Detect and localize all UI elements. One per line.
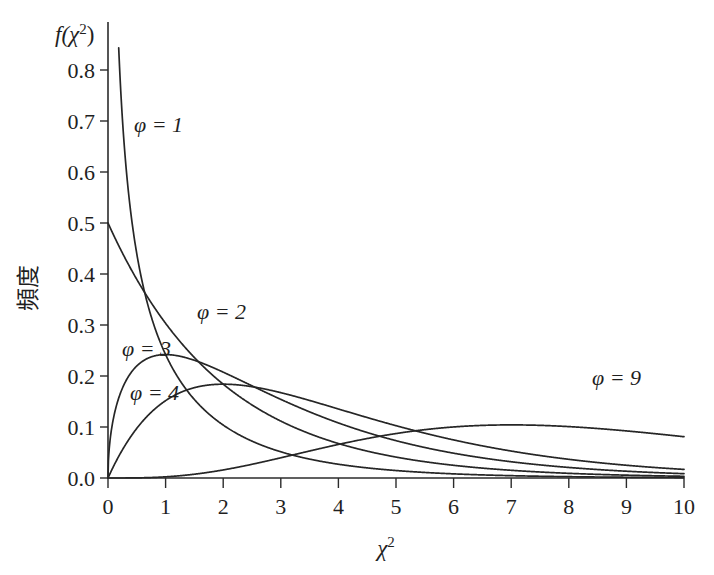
x-tick-label-7: 7	[506, 494, 517, 519]
x-tick-label-6: 6	[448, 494, 459, 519]
y-tick-label-7: 0.7	[68, 109, 96, 134]
x-tick-label-0: 0	[103, 494, 114, 519]
y-tick-label-4: 0.4	[68, 262, 96, 287]
y-axis-function-label: f(χ2)	[55, 21, 94, 47]
y-axis-chi-glyph: χ	[67, 22, 80, 47]
x-tick-label-3: 3	[275, 494, 286, 519]
y-tick-label-5: 0.5	[68, 211, 96, 236]
x-tick-label-5: 5	[391, 494, 402, 519]
curve-label-phi-2: φ = 2	[197, 299, 246, 324]
y-axis-label-japanese: 頻度	[15, 265, 41, 311]
curve-label-phi-4: φ = 4	[130, 380, 179, 405]
y-tick-label-2: 0.2	[68, 364, 96, 389]
x-axis-exponent: 2	[387, 534, 395, 550]
x-tick-label-9: 9	[621, 494, 632, 519]
x-axis-chi-glyph: χ	[375, 536, 388, 561]
x-tick-label-10: 10	[673, 494, 695, 519]
y-tick-label-0: 0.0	[68, 466, 96, 491]
y-axis-tick-labels: 0.0 0.1 0.2 0.3 0.4 0.5 0.6 0.7 0.8	[68, 58, 96, 491]
distribution-curves	[108, 48, 684, 478]
curve-annotations: φ = 1 φ = 2 φ = 3 φ = 4 φ = 9	[122, 112, 641, 405]
chi-square-distribution-chart: 0.0 0.1 0.2 0.3 0.4 0.5 0.6 0.7 0.8 0	[0, 0, 714, 575]
x-tick-label-4: 4	[333, 494, 344, 519]
curve-df-2	[108, 223, 684, 476]
x-tick-label-8: 8	[563, 494, 574, 519]
x-axis-ticks	[108, 478, 684, 488]
curve-label-phi-9: φ = 9	[592, 365, 641, 390]
curve-df-1	[119, 48, 684, 478]
plot-area: 0.0 0.1 0.2 0.3 0.4 0.5 0.6 0.7 0.8 0	[0, 0, 714, 575]
y-tick-label-1: 0.1	[68, 415, 96, 440]
svg-text:f(χ2): f(χ2)	[55, 21, 94, 47]
curve-label-phi-3: φ = 3	[122, 336, 171, 361]
curve-label-phi-1: φ = 1	[134, 112, 183, 137]
y-tick-label-8: 0.8	[68, 58, 96, 83]
svg-text:χ2: χ2	[375, 534, 395, 561]
y-tick-label-3: 0.3	[68, 313, 96, 338]
x-axis-tick-labels: 0 1 2 3 4 5 6 7 8 9 10	[103, 494, 696, 519]
x-tick-label-2: 2	[218, 494, 229, 519]
y-axis-ticks	[100, 70, 108, 478]
x-axis-label: χ2	[375, 534, 395, 561]
y-axis-label-text: 頻度	[15, 265, 41, 311]
y-axis-paren-close: )	[87, 22, 95, 47]
y-tick-label-6: 0.6	[68, 160, 96, 185]
y-axis-exponent: 2	[79, 21, 87, 37]
x-tick-label-1: 1	[160, 494, 171, 519]
